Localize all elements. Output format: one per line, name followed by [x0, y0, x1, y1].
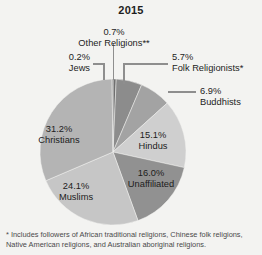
pie-label-christians-pct: 31.2% [27, 124, 91, 135]
pie-label-buddhists-pct: 6.9% [200, 86, 260, 97]
pie-slices [40, 79, 186, 225]
pie-label-unaffiliated-name: Unaffiliated [113, 179, 189, 190]
pie-label-christians: 31.2% Christians [27, 124, 91, 145]
chart-footnote: * Includes followers of African traditio… [6, 230, 258, 249]
pie-label-unaffiliated: 16.0% Unaffiliated [113, 168, 189, 189]
pie-label-jews: 0.2% Jews [8, 52, 90, 73]
pie-chart-figure: 2015 0.7% Other Religions** 0.2% Jews 5.… [0, 0, 262, 255]
pie-label-hindus: 15.1% Hindus [123, 130, 183, 151]
pie-label-jews-name: Jews [8, 63, 90, 74]
pie-label-buddhists: 6.9% Buddhists [200, 86, 260, 107]
pie-label-muslims-name: Muslims [46, 192, 106, 203]
pie-label-other-religions-name: Other Religions** [55, 38, 173, 49]
pie-label-christians-name: Christians [27, 135, 91, 146]
pie-label-muslims-pct: 24.1% [46, 181, 106, 192]
pie-label-hindus-pct: 15.1% [123, 130, 183, 141]
leader-line-jews [93, 64, 104, 80]
pie-label-folk-religionists-name: Folk Religionists* [172, 63, 262, 74]
pie-label-buddhists-name: Buddhists [200, 97, 260, 108]
pie-label-jews-pct: 0.2% [8, 52, 90, 63]
pie-label-unaffiliated-pct: 16.0% [113, 168, 189, 179]
pie-label-other-religions-pct: 0.7% [55, 27, 173, 38]
pie-label-folk-religionists-pct: 5.7% [172, 52, 262, 63]
pie-label-muslims: 24.1% Muslims [46, 181, 106, 202]
pie-label-hindus-name: Hindus [123, 141, 183, 152]
pie-label-folk-religionists: 5.7% Folk Religionists* [172, 52, 262, 73]
pie-label-other-religions: 0.7% Other Religions** [55, 27, 173, 48]
